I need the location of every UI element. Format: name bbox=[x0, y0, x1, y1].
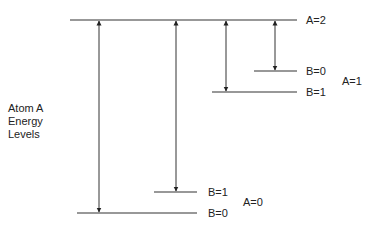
axis-label-line-2: Energy bbox=[8, 115, 43, 128]
level-label-a0-b1: B=1 bbox=[208, 186, 228, 198]
level-label-a1-b0: B=0 bbox=[306, 65, 326, 77]
group-label-a1: A=1 bbox=[342, 75, 362, 87]
axis-label-line-1: Atom A bbox=[8, 102, 43, 115]
energy-level-diagram bbox=[0, 0, 365, 226]
axis-label-line-3: Levels bbox=[8, 128, 43, 141]
level-label-a2: A=2 bbox=[306, 14, 326, 26]
level-label-a1-b1: B=1 bbox=[306, 86, 326, 98]
level-label-a0-b0: B=0 bbox=[208, 207, 228, 219]
group-label-a0: A=0 bbox=[243, 196, 263, 208]
axis-label: Atom A Energy Levels bbox=[8, 102, 43, 141]
